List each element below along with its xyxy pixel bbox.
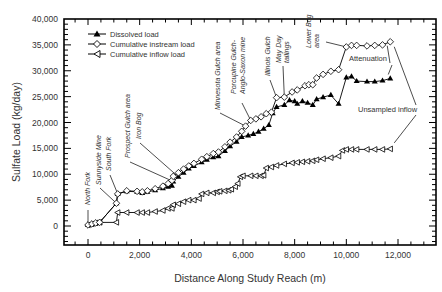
legend: Dissolved load Cumulative instream load … (88, 30, 195, 59)
annotation-label: South Fork (105, 136, 112, 171)
data-point-inflow (310, 158, 315, 164)
leader-line (100, 188, 116, 203)
data-point-inflow (380, 147, 385, 153)
legend-marker-open-triangle (94, 51, 100, 58)
data-point-inflow (328, 155, 333, 161)
data-point-inflow (152, 209, 157, 215)
data-point-inflow (144, 210, 149, 216)
y-tick-label: 15,000 (32, 143, 58, 153)
x-tick-label: 8,000 (284, 250, 306, 260)
data-point-dissolved (256, 129, 262, 134)
annotation-label: tailings (283, 41, 291, 63)
data-point-instream (320, 71, 327, 78)
annotation-label: Illinois Gulch (264, 36, 271, 76)
x-tick-label: 0 (86, 250, 91, 260)
leader-line (220, 113, 246, 126)
x-axis-title: Distance Along Study Reach (m) (174, 272, 326, 284)
y-tick-label: 40,000 (32, 14, 58, 24)
data-point-instream (379, 42, 386, 49)
data-point-dissolved (387, 75, 393, 80)
data-point-inflow (320, 156, 325, 162)
x-tick-label: 12,000 (385, 250, 411, 260)
data-point-dissolved (364, 78, 370, 83)
x-tick-label: 2,000 (129, 250, 151, 260)
data-point-dissolved (266, 122, 272, 127)
y-tick-label: 20,000 (32, 118, 58, 128)
legend-item-dissolved: Dissolved load (88, 30, 159, 39)
y-tick-label: 30,000 (32, 66, 58, 76)
series-cumulative-inflow-load (85, 146, 392, 228)
annotation-unsampled-inflow: Unsampled inflow (358, 105, 418, 114)
y-tick-label: 5,000 (37, 195, 59, 205)
data-point-inflow (336, 153, 341, 159)
data-point-dissolved (261, 126, 267, 131)
legend-label-dissolved: Dissolved load (110, 30, 159, 39)
x-tick-label: 6,000 (232, 250, 254, 260)
data-point-inflow (364, 147, 369, 153)
y-tick-label: 35,000 (32, 40, 58, 50)
leader-line (140, 143, 178, 177)
annotation-label: area (313, 34, 320, 48)
data-point-instream (273, 94, 280, 101)
annotation-label: Minnesota Gulch area (214, 41, 221, 110)
data-point-instream (387, 38, 394, 45)
leader-line (110, 175, 118, 194)
y-tick-labels: 05,00010,00015,00020,00025,00030,00035,0… (32, 14, 58, 231)
data-point-instream (353, 42, 360, 49)
annotation-label: Porcupine Gulch- (230, 39, 238, 94)
data-point-instream (281, 94, 288, 101)
data-point-inflow (124, 210, 129, 216)
data-point-instream (309, 81, 316, 88)
data-point-dissolved (349, 73, 355, 78)
data-point-instream (313, 75, 320, 82)
legend-label-instream: Cumulative instream load (110, 40, 195, 49)
annotation-attenuation: Attenuation (349, 54, 387, 63)
data-point-inflow (387, 146, 392, 152)
x-tick-labels: 02,0004,0006,0008,00010,00012,000 (86, 250, 412, 260)
legend-marker-open-diamond (94, 41, 101, 48)
data-point-inflow (339, 148, 344, 154)
data-point-inflow (204, 190, 209, 196)
x-tick-label: 10,000 (333, 250, 359, 260)
annotation-label: Lower Bog (305, 14, 313, 48)
data-point-inflow (305, 159, 310, 165)
leader-line (283, 66, 284, 97)
data-point-instream (364, 43, 371, 50)
y-tick-label: 0 (53, 221, 58, 231)
data-point-inflow (268, 164, 273, 170)
data-point-inflow (181, 199, 186, 205)
sulfate-load-chart: 05,00010,00015,00020,00025,00030,00035,0… (0, 0, 442, 292)
annotation-label: Anglo-Saxon mine (239, 37, 247, 95)
data-point-inflow (294, 160, 299, 166)
leader-line (394, 115, 416, 143)
legend-label-inflow: Cumulative inflow load (110, 50, 185, 59)
annotation-label: Iron Bog (135, 112, 143, 139)
legend-item-instream: Cumulative instream load (88, 40, 195, 49)
leader-line (242, 103, 251, 120)
annotation-label: May Day (275, 35, 283, 63)
leader-line (388, 65, 392, 75)
data-point-inflow (160, 208, 165, 214)
data-point-inflow (175, 201, 180, 207)
data-point-dissolved (328, 92, 334, 97)
data-point-instream (371, 42, 378, 49)
data-point-dissolved (299, 98, 305, 103)
x-tick-label: 4,000 (181, 250, 203, 260)
leader-line (387, 46, 390, 63)
data-point-inflow (196, 196, 201, 202)
legend-item-inflow: Cumulative inflow load (88, 50, 185, 59)
y-tick-label: 10,000 (32, 169, 58, 179)
annotation-label: Sunnyside Mine (95, 135, 103, 185)
data-point-inflow (354, 147, 359, 153)
data-point-inflow (210, 190, 215, 196)
data-point-inflow (299, 159, 304, 165)
data-point-inflow (191, 197, 196, 203)
data-point-instream (328, 68, 335, 75)
data-point-instream (114, 191, 121, 198)
series-line (88, 149, 390, 225)
leader-line (394, 47, 416, 105)
data-point-instream (335, 66, 342, 73)
y-axis-title: Sulfate Load (kg/day) (10, 82, 22, 182)
annotation-label: North Fork (84, 171, 91, 205)
data-point-inflow (274, 163, 279, 169)
